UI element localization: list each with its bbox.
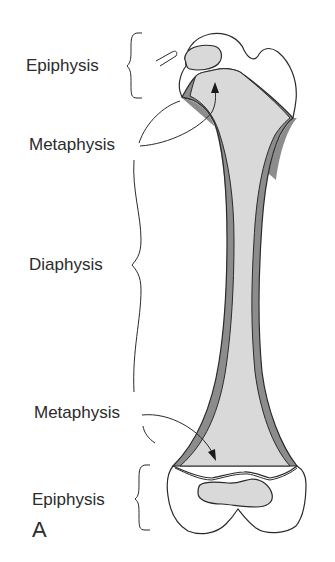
diaphysis-brace	[132, 160, 141, 392]
marrow-cavity	[180, 69, 290, 466]
bone-illustration	[0, 0, 335, 562]
label-epiphysis-bottom: Epiphysis	[32, 491, 105, 508]
head-lip-line	[156, 51, 177, 66]
epiphysis-bottom-brace	[135, 465, 150, 530]
label-epiphysis-top: Epiphysis	[26, 57, 99, 74]
epiphysis-top-brace	[127, 33, 142, 98]
metaphysis-top-brace	[139, 101, 180, 143]
metaphysis-bottom-tick	[143, 426, 155, 443]
label-metaphysis-bottom: Metaphysis	[34, 404, 120, 421]
panel-letter: A	[32, 519, 47, 541]
lower-ossification-center	[198, 479, 272, 507]
upper-ossification-center	[185, 45, 222, 70]
label-metaphysis-top: Metaphysis	[29, 136, 115, 153]
bone-diagram: Epiphysis Metaphysis Diaphysis Metaphysi…	[0, 0, 335, 562]
label-diaphysis: Diaphysis	[29, 256, 103, 273]
